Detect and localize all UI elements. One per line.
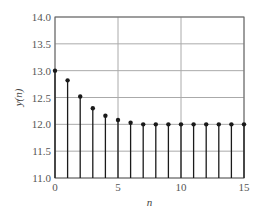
x-tick-labels: 051015 [52, 181, 250, 193]
stem-series [53, 68, 246, 178]
stem-marker [179, 122, 183, 126]
stem-marker [242, 122, 246, 126]
x-tick-label: 5 [115, 181, 121, 193]
x-tick-label: 15 [239, 181, 251, 193]
stem-marker [128, 121, 132, 125]
x-axis-label: n [147, 196, 153, 208]
stem-marker [204, 122, 208, 126]
y-tick-label: 12.0 [32, 118, 52, 130]
x-tick-label: 10 [176, 181, 188, 193]
stem-marker [91, 106, 95, 110]
stem-marker [154, 122, 158, 126]
grid-lines [55, 17, 244, 178]
y-tick-label: 12.5 [32, 92, 52, 104]
y-tick-label: 13.5 [32, 38, 52, 50]
stem-marker [65, 78, 69, 82]
x-tick-label: 0 [52, 181, 58, 193]
y-tick-label: 14.0 [32, 11, 52, 23]
stem-marker [191, 122, 195, 126]
stem-marker [141, 122, 145, 126]
stem-marker [116, 118, 120, 122]
stem-marker [166, 122, 170, 126]
y-tick-labels: 11.011.512.012.513.013.514.0 [32, 11, 52, 184]
y-tick-label: 11.0 [32, 172, 51, 184]
y-tick-label: 11.5 [32, 145, 51, 157]
y-axis-label: y(n) [12, 88, 25, 107]
stem-chart: 11.011.512.012.513.013.514.0 051015 n y(… [0, 0, 256, 211]
y-tick-label: 13.0 [32, 65, 52, 77]
stem-marker [78, 94, 82, 98]
stem-marker [217, 122, 221, 126]
stem-marker [229, 122, 233, 126]
stem-marker [53, 68, 57, 72]
stem-marker [103, 114, 107, 118]
